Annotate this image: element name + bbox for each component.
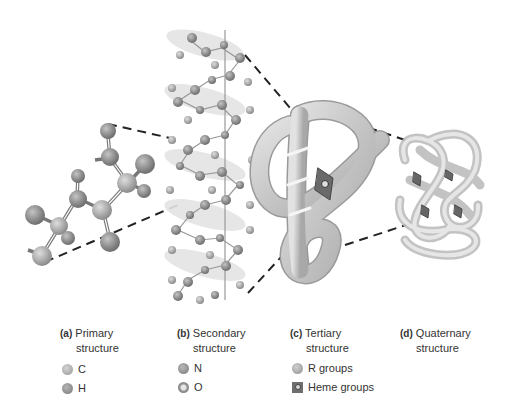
caption-subtitle: structure	[60, 341, 119, 356]
legend-item-r-groups: R groups	[292, 361, 353, 375]
legend-label: H	[78, 381, 86, 395]
caption-tag: (b)	[177, 328, 190, 339]
caption-tag: (d)	[400, 328, 413, 339]
caption-title: Tertiary	[305, 327, 341, 339]
caption-tag: (a)	[60, 328, 72, 339]
legend-item-heme-groups: Heme groups	[292, 380, 374, 394]
legend-item-hydrogen: H	[62, 381, 86, 395]
hydrogen-atom-icon	[62, 383, 73, 394]
legend-label: Heme groups	[308, 380, 374, 394]
secondary-structure-helix	[161, 23, 256, 304]
caption-quaternary-structure: (d) Quaternary structure	[400, 326, 471, 356]
legend-label: R groups	[308, 361, 353, 375]
carbon-atom-icon	[62, 364, 73, 375]
legend-label: O	[194, 380, 203, 394]
primary-structure-model	[25, 123, 155, 266]
heme-group-icon	[292, 382, 303, 393]
quaternary-structure-model	[399, 134, 480, 255]
legend-item-nitrogen: N	[178, 361, 202, 375]
caption-title: Quaternary	[416, 327, 471, 339]
caption-subtitle: structure	[400, 341, 471, 356]
caption-title: Primary	[75, 327, 113, 339]
nitrogen-atom-icon	[178, 363, 189, 374]
caption-subtitle: structure	[290, 341, 349, 356]
oxygen-atom-icon	[178, 382, 189, 393]
caption-secondary-structure: (b) Secondary structure	[177, 326, 245, 356]
legend-label: N	[194, 361, 202, 375]
caption-tertiary-structure: (c) Tertiary structure	[290, 326, 349, 356]
r-group-icon	[292, 363, 303, 374]
legend-item-oxygen: O	[178, 380, 203, 394]
caption-tag: (c)	[290, 328, 302, 339]
tertiary-structure-model	[259, 110, 380, 274]
caption-primary-structure: (a) Primary structure	[60, 326, 119, 356]
legend-label: C	[78, 362, 86, 376]
caption-title: Secondary	[193, 327, 246, 339]
caption-subtitle: structure	[177, 341, 245, 356]
legend-item-carbon: C	[62, 362, 86, 376]
